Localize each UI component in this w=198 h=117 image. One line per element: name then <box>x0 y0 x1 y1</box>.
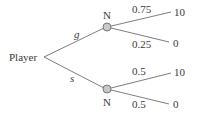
root-label: Player <box>9 51 37 63</box>
payoff-bottom-low: 0 <box>173 98 179 110</box>
chance-node-bottom <box>103 85 111 93</box>
node-label-bottom: N <box>103 96 111 108</box>
prob-bottom-high: 0.5 <box>132 65 146 77</box>
payoff-top-low: 0 <box>173 37 179 49</box>
node-label-top: N <box>103 9 111 21</box>
payoff-top-high: 10 <box>174 6 186 18</box>
payoff-bottom-high: 10 <box>174 66 186 78</box>
chance-node-top <box>103 23 111 31</box>
prob-bottom-low: 0.5 <box>132 98 146 110</box>
prob-top-low: 0.25 <box>132 38 152 50</box>
action-label-g: g <box>74 28 80 40</box>
game-tree: Player g s N N 0.75 0.25 0.5 0.5 10 0 10… <box>0 0 198 117</box>
action-label-s: s <box>70 72 74 84</box>
prob-top-high: 0.75 <box>132 3 152 15</box>
